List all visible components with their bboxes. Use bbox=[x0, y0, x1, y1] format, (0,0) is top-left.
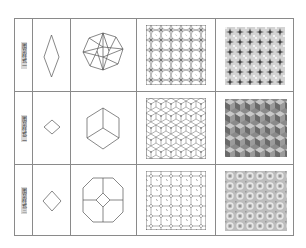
tiling-cube bbox=[146, 98, 206, 159]
column-divider bbox=[215, 19, 216, 235]
unit-shape-square-diamond bbox=[33, 165, 70, 236]
row-label-3: 图案样式三 bbox=[15, 165, 33, 236]
motif-octagon-cross-diamond bbox=[71, 165, 136, 236]
tiling-star-rhombus bbox=[146, 25, 206, 85]
tiling-octagon-square bbox=[146, 171, 206, 230]
row-label-2: 图案样式二 bbox=[15, 92, 33, 164]
shaded-tiling-star bbox=[225, 27, 285, 85]
unit-shape-rhombus-wide bbox=[33, 92, 70, 164]
motif-hexagon-cube bbox=[71, 92, 136, 164]
pattern-table: 图案样式一 图案样式二 图案样式三 bbox=[14, 18, 294, 236]
shaded-tiling-cube bbox=[225, 99, 287, 157]
unit-shape-rhombus-tall bbox=[33, 19, 70, 91]
motif-octagon-star bbox=[71, 19, 136, 91]
row-label-1: 图案样式一 bbox=[15, 19, 33, 91]
column-divider bbox=[136, 19, 137, 235]
shaded-tiling-octagon bbox=[225, 171, 287, 231]
